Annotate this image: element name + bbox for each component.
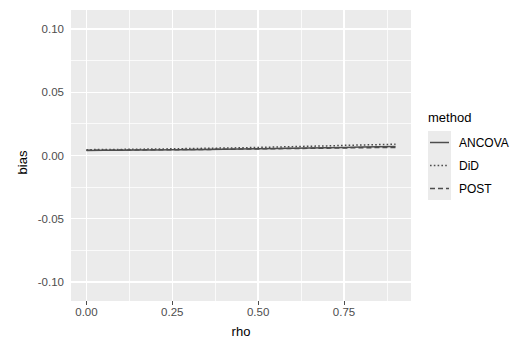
legend-label: POST [459,182,492,196]
legend-title: method [428,110,509,125]
y-axis-tick-labels: 0.100.050.00-0.05-0.10 [14,0,64,351]
x-axis-tick-mark [258,301,259,305]
legend-label: ANCOVA [459,136,509,150]
legend-item-post[interactable]: POST [428,177,509,200]
x-axis-tick-mark [344,301,345,305]
y-axis-tick-label: -0.05 [20,213,64,225]
y-axis-tick-label: 0.10 [20,23,64,35]
x-axis-tick-label: 0.00 [75,306,97,318]
x-axis-tick-mark [86,301,87,305]
y-axis-tick-label: 0.05 [20,86,64,98]
x-axis-tick-label: 0.50 [247,306,269,318]
x-axis-title: rho [71,324,411,339]
legend-key-dotted-icon [428,154,451,177]
legend-key-dashed-icon [428,177,451,200]
legend-key-solid-icon [428,131,451,154]
x-axis-tick-label: 0.25 [161,306,183,318]
legend-label: DiD [459,159,479,173]
x-axis-tick-label: 0.75 [333,306,355,318]
x-axis-tick-mark [172,301,173,305]
data-lines [71,10,411,301]
legend-item-did[interactable]: DiD [428,154,509,177]
legend-items: ANCOVADiDPOST [428,131,509,200]
chart-plot: bias 0.100.050.00-0.05-0.10 0.000.250.50… [0,0,531,351]
y-axis-tick-label: 0.00 [20,150,64,162]
plot-panel [71,10,411,301]
legend: method ANCOVADiDPOST [428,110,509,200]
legend-item-ancova[interactable]: ANCOVA [428,131,509,154]
y-axis-tick-label: -0.10 [20,276,64,288]
